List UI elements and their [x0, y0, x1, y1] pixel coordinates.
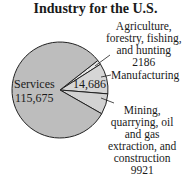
- mining-label-line: quarrying, oil: [108, 116, 176, 128]
- agri-label-line: Agriculture,: [106, 20, 182, 32]
- mining-label-line: extraction, and: [108, 140, 176, 152]
- mining-label-line: and gas: [108, 128, 176, 140]
- manufacturing-label: Manufacturing: [111, 69, 179, 81]
- services-label: Services 115,675: [14, 77, 55, 105]
- agriculture-label: Agriculture, forestry, fishing, and hunt…: [106, 20, 182, 68]
- agri-label-line: forestry, fishing,: [106, 32, 182, 44]
- mining-label: Mining, quarrying, oil and gas extractio…: [108, 104, 176, 174]
- mining-label-line: construction: [108, 152, 176, 164]
- agri-label-line: and hunting: [106, 44, 182, 56]
- services-name: Services: [14, 77, 55, 91]
- agri-value: 2186: [106, 56, 182, 68]
- services-value: 115,675: [14, 91, 55, 105]
- manufacturing-value: 14,686: [73, 78, 106, 91]
- mining-value: 9921: [108, 164, 176, 174]
- mining-label-line: Mining,: [108, 104, 176, 116]
